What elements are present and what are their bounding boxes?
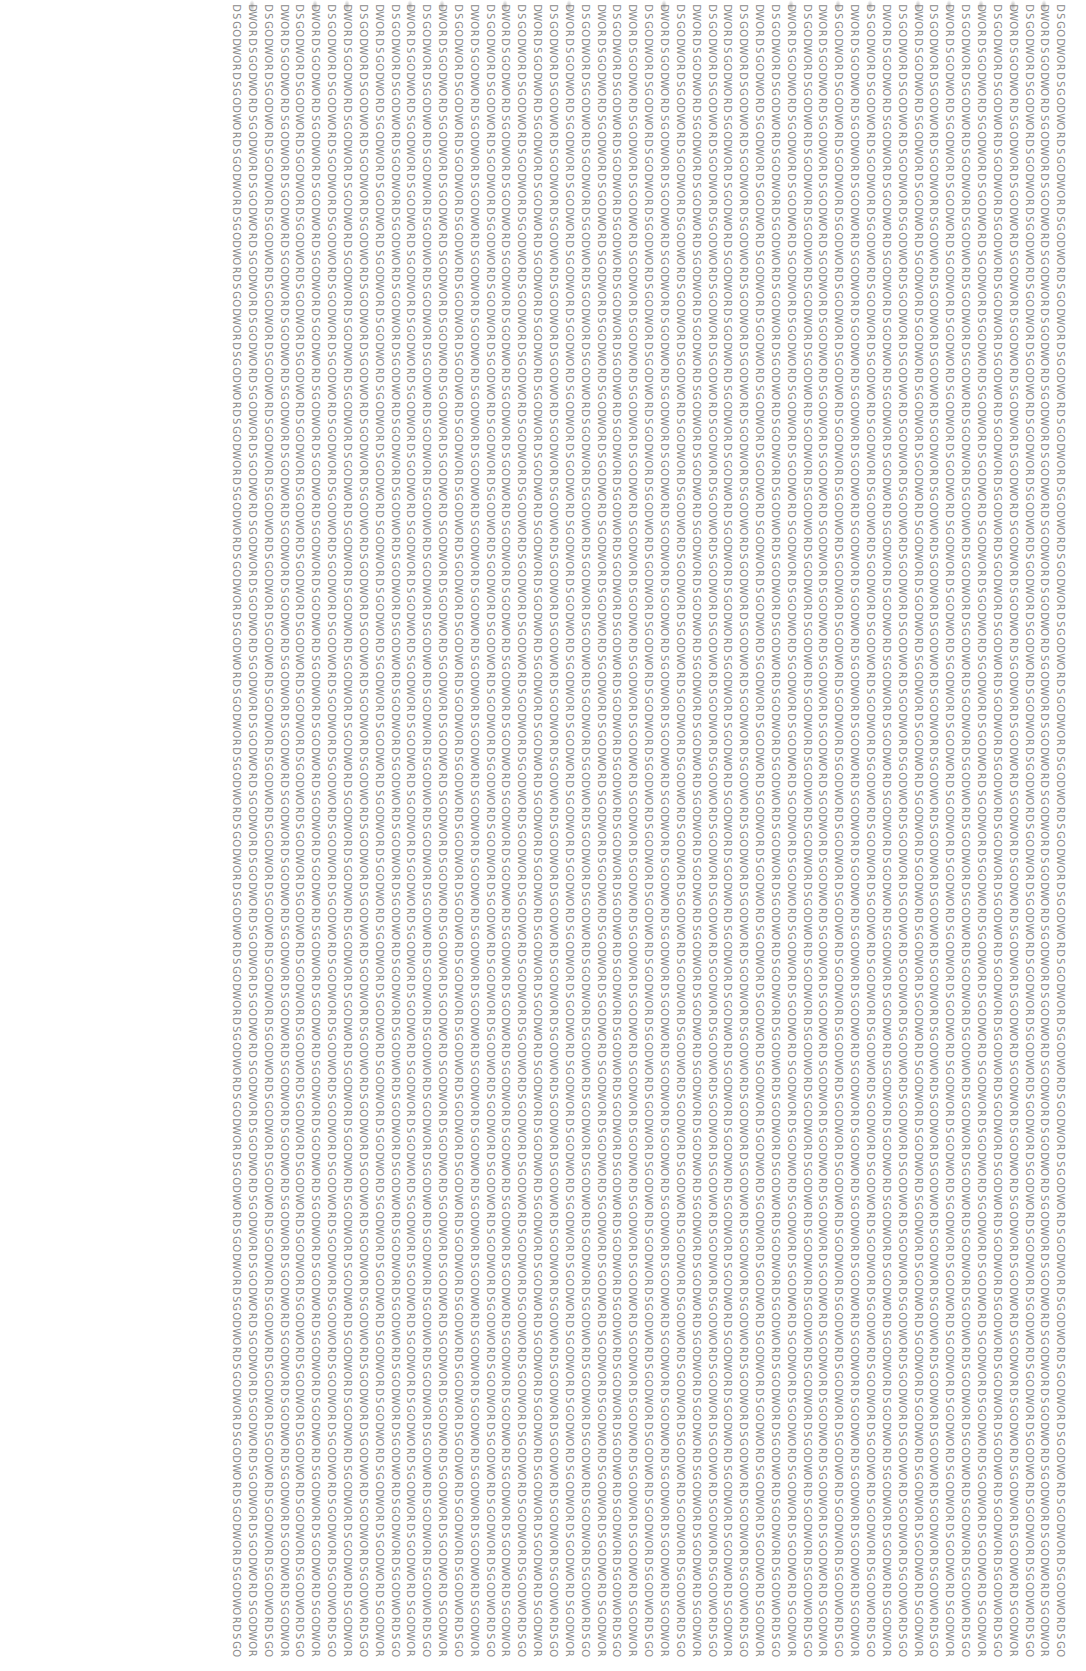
text-column: DSGODWORDSGODWORDSGODWORDSGODWORDSGODWOR… [926,4,940,1658]
text-column: DSGODWORDSGODWORDSGODWORDSGODWORDSGODWOR… [546,4,560,1658]
scan-smudge [915,0,921,12]
text-column: DSGODWORDSGODWORDSGODWORDSGODWORDSGODWOR… [229,4,243,1658]
text-column: DSGODWORDSGODWORDSGODWORDSGODWORDSGODWOR… [1053,4,1067,1658]
text-column: DSGODWORDSGODWORDSGODWORDSGODWORDSGODWOR… [292,4,306,1658]
text-column: DSGODWORDSGODWORDSGODWORDSGODWORDSGODWOR… [356,4,370,1658]
text-column: DSGODWORDSGODWORDSGODWORDSGODWORDSGODWOR… [705,4,719,1658]
text-column: DWORDSGODWORDSGODWORDSGODWORDSGODWORDSGO… [467,4,481,1658]
text-column: DSGODWORDSGODWORDSGODWORDSGODWORDSGODWOR… [895,4,909,1658]
text-column: DWORDSGODWORDSGODWORDSGODWORDSGODWORDSGO… [277,4,291,1658]
text-column: DSGODWORDSGODWORDSGODWORDSGODWORDSGODWOR… [863,4,877,1658]
scan-smudge [1010,0,1016,12]
text-column: DWORDSGODWORDSGODWORDSGODWORDSGODWORDSGO… [403,4,417,1658]
text-column: DSGODWORDSGODWORDSGODWORDSGODWORDSGODWOR… [388,4,402,1658]
text-column: DSGODWORDSGODWORDSGODWORDSGODWORDSGODWOR… [800,4,814,1658]
text-column: DSGODWORDSGODWORDSGODWORDSGODWORDSGODWOR… [324,4,338,1658]
text-column: DWORDSGODWORDSGODWORDSGODWORDSGODWORDSGO… [372,4,386,1658]
scan-smudge [566,0,572,12]
text-column: DWORDSGODWORDSGODWORDSGODWORDSGODWORDSGO… [562,4,576,1658]
text-column: DWORDSGODWORDSGODWORDSGODWORDSGODWORDSGO… [911,4,925,1658]
scan-smudge [867,0,873,12]
text-column: DWORDSGODWORDSGODWORDSGODWORDSGODWORDSGO… [815,4,829,1658]
text-column: DSGODWORDSGODWORDSGODWORDSGODWORDSGODWOR… [990,4,1004,1658]
text-column: DWORDSGODWORDSGODWORDSGODWORDSGODWORDSGO… [530,4,544,1658]
text-column: DSGODWORDSGODWORDSGODWORDSGODWORDSGODWOR… [958,4,972,1658]
text-column: DWORDSGODWORDSGODWORDSGODWORDSGODWORDSGO… [340,4,354,1658]
scan-smudge [946,0,952,12]
text-column: DWORDSGODWORDSGODWORDSGODWORDSGODWORDSGO… [1037,4,1051,1658]
text-column: DSGODWORDSGODWORDSGODWORDSGODWORDSGODWOR… [451,4,465,1658]
scan-smudge [1041,0,1047,12]
text-column: DWORDSGODWORDSGODWORDSGODWORDSGODWORDSGO… [245,4,259,1658]
text-column: DWORDSGODWORDSGODWORDSGODWORDSGODWORDSGO… [308,4,322,1658]
scan-smudge [407,0,413,12]
text-column: DWORDSGODWORDSGODWORDSGODWORDSGODWORDSGO… [720,4,734,1658]
text-column: DSGODWORDSGODWORDSGODWORDSGODWORDSGODWOR… [641,4,655,1658]
text-column: DWORDSGODWORDSGODWORDSGODWORDSGODWORDSGO… [498,4,512,1658]
scan-smudge [661,0,667,12]
scan-smudge [502,0,508,12]
scan-smudge [249,0,255,12]
scan-smudge [312,0,318,12]
text-column: DWORDSGODWORDSGODWORDSGODWORDSGODWORDSGO… [879,4,893,1658]
text-column: DWORDSGODWORDSGODWORDSGODWORDSGODWORDSGO… [784,4,798,1658]
text-column: DWORDSGODWORDSGODWORDSGODWORDSGODWORDSGO… [625,4,639,1658]
text-column: DSGODWORDSGODWORDSGODWORDSGODWORDSGODWOR… [419,4,433,1658]
scan-smudge [978,0,984,12]
scan-smudge [439,0,445,12]
rotated-word-pattern: DSGODWORDSGODWORDSGODWORDSGODWORDSGODWOR… [0,0,1086,1671]
text-column: DSGODWORDSGODWORDSGODWORDSGODWORDSGODWOR… [483,4,497,1658]
text-column: DSGODWORDSGODWORDSGODWORDSGODWORDSGODWOR… [831,4,845,1658]
text-column: DWORDSGODWORDSGODWORDSGODWORDSGODWORDSGO… [435,4,449,1658]
text-column: DSGODWORDSGODWORDSGODWORDSGODWORDSGODWOR… [673,4,687,1658]
text-column: DSGODWORDSGODWORDSGODWORDSGODWORDSGODWOR… [768,4,782,1658]
text-column: DSGODWORDSGODWORDSGODWORDSGODWORDSGODWOR… [1022,4,1036,1658]
text-column: DWORDSGODWORDSGODWORDSGODWORDSGODWORDSGO… [942,4,956,1658]
text-column: DWORDSGODWORDSGODWORDSGODWORDSGODWORDSGO… [847,4,861,1658]
text-column: DWORDSGODWORDSGODWORDSGODWORDSGODWORDSGO… [689,4,703,1658]
text-column: DWORDSGODWORDSGODWORDSGODWORDSGODWORDSGO… [752,4,766,1658]
scan-smudge [835,0,841,12]
text-column: DSGODWORDSGODWORDSGODWORDSGODWORDSGODWOR… [514,4,528,1658]
text-column: DSGODWORDSGODWORDSGODWORDSGODWORDSGODWOR… [609,4,623,1658]
scan-smudge [788,0,794,12]
text-column: DSGODWORDSGODWORDSGODWORDSGODWORDSGODWOR… [261,4,275,1658]
text-column: DWORDSGODWORDSGODWORDSGODWORDSGODWORDSGO… [594,4,608,1658]
text-column: DWORDSGODWORDSGODWORDSGODWORDSGODWORDSGO… [1006,4,1020,1658]
scan-smudge [344,0,350,12]
text-column: DSGODWORDSGODWORDSGODWORDSGODWORDSGODWOR… [736,4,750,1658]
text-column: DWORDSGODWORDSGODWORDSGODWORDSGODWORDSGO… [657,4,671,1658]
text-column: DWORDSGODWORDSGODWORDSGODWORDSGODWORDSGO… [974,4,988,1658]
text-column: DSGODWORDSGODWORDSGODWORDSGODWORDSGODWOR… [578,4,592,1658]
